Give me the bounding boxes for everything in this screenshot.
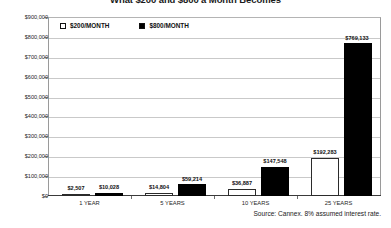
bar-value-label: $192,283 [304,149,346,156]
bar-value-label: $10,028 [88,184,130,191]
bar-800-month[interactable] [95,193,123,196]
y-tick-label: $200,000 [4,153,48,159]
chart-title: What $200 and $800 a Month Becomes [0,0,391,6]
y-tick-label: $700,000 [4,54,48,60]
y-tick-label: $900,000 [4,14,48,20]
y-tick-label: $400,000 [4,113,48,119]
x-tick-label-5-years: 5 YEARS [135,199,210,207]
source-note: Source: Cannex. 8% assumed interest rate… [253,209,381,218]
bar-200-month[interactable] [62,194,90,196]
bar-value-label: $769,133 [335,35,379,42]
x-tick-label-1-year: 1 YEAR [52,199,127,207]
y-tick-label: $100,000 [4,173,48,179]
bar-group-10-years: $36,887 $147,548 [222,17,297,196]
x-tick-label-25-years: 25 YEARS [301,199,376,207]
x-tick-label-10-years: 10 YEARS [218,199,293,207]
bar-group-5-years: $14,804 $59,214 [139,17,214,196]
y-tick-label: $600,000 [4,74,48,80]
y-tick-label: $300,000 [4,133,48,139]
bar-value-label: $59,214 [171,176,213,183]
bars-layer: $2,507 $10,028 $14,804 $59,214 $36,887 $… [48,17,381,196]
bar-value-label: $147,548 [254,158,296,165]
x-tick-mark [297,196,298,199]
bar-200-month[interactable] [145,193,173,196]
bar-group-25-years: $192,283 $769,133 [305,17,380,196]
bar-value-label: $14,804 [138,184,180,191]
y-tick-mark [44,196,48,197]
y-tick-label: $800,000 [4,34,48,40]
x-tick-mark [214,196,215,199]
bar-200-month[interactable] [311,158,339,196]
bar-800-month[interactable] [261,167,289,196]
bar-value-label: $36,887 [221,180,263,187]
bar-800-month[interactable] [344,43,372,196]
bar-group-1-year: $2,507 $10,028 [56,17,131,196]
y-tick-label: $0 [4,193,48,199]
y-tick-label: $500,000 [4,94,48,100]
bar-200-month[interactable] [228,189,256,196]
y-axis: $900,000 $800,000 $700,000 $600,000 $500… [0,0,48,228]
x-tick-mark [131,196,132,199]
bar-800-month[interactable] [178,184,206,196]
